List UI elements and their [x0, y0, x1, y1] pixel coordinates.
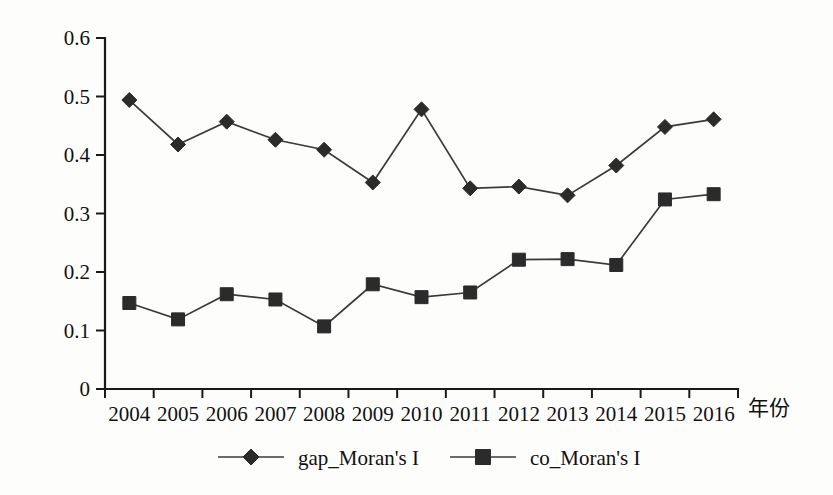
- data-point-marker: [512, 253, 525, 266]
- x-axis-tick-labels: 2004200520062007200820092010201120122013…: [108, 402, 734, 426]
- x-tick-label: 2014: [595, 402, 638, 426]
- y-tick-label: 0.4: [64, 143, 91, 167]
- data-point-marker: [268, 132, 283, 147]
- data-point-marker: [219, 114, 234, 129]
- x-tick-label: 2013: [547, 402, 589, 426]
- data-point-marker: [269, 293, 282, 306]
- x-tick-label: 2012: [498, 402, 540, 426]
- x-tick-label: 2007: [254, 402, 296, 426]
- data-point-marker: [658, 193, 671, 206]
- x-tick-label: 2008: [303, 402, 345, 426]
- line-chart: 00.10.20.30.40.50.6 20042005200620072008…: [0, 0, 833, 495]
- series-2: [123, 188, 720, 333]
- x-tick-label: 2011: [450, 402, 491, 426]
- x-tick-label: 2006: [206, 402, 248, 426]
- data-point-marker: [463, 181, 478, 196]
- legend-marker-square: [476, 450, 491, 465]
- chart-legend: gap_Moran's Ico_Moran's I: [218, 446, 641, 470]
- data-point-marker: [366, 278, 379, 291]
- data-point-marker: [220, 288, 233, 301]
- data-point-marker: [317, 142, 332, 157]
- x-tick-label: 2004: [108, 402, 151, 426]
- legend-label: co_Moran's I: [530, 446, 641, 470]
- y-axis-ticks: [96, 38, 105, 389]
- data-point-marker: [365, 175, 380, 190]
- chart-series: [122, 93, 721, 333]
- data-point-marker: [707, 188, 720, 201]
- data-point-marker: [609, 158, 624, 173]
- legend-label: gap_Moran's I: [298, 446, 419, 470]
- chart-axes: [96, 38, 738, 398]
- legend-item-1[interactable]: gap_Moran's I: [218, 446, 419, 470]
- data-point-marker: [511, 179, 526, 194]
- data-point-marker: [464, 286, 477, 299]
- y-axis-tick-labels: 00.10.20.30.40.50.6: [64, 26, 91, 401]
- data-point-marker: [318, 320, 331, 333]
- x-tick-label: 2005: [157, 402, 199, 426]
- data-point-marker: [123, 297, 136, 310]
- chart-figure: 00.10.20.30.40.50.6 20042005200620072008…: [0, 0, 833, 495]
- data-point-marker: [561, 253, 574, 266]
- data-point-marker: [414, 102, 429, 117]
- data-point-marker: [657, 119, 672, 134]
- x-axis-ticks: [105, 389, 738, 398]
- y-tick-label: 0: [80, 377, 91, 401]
- y-tick-label: 0.2: [64, 260, 90, 284]
- data-point-marker: [706, 112, 721, 127]
- x-tick-label: 2016: [693, 402, 735, 426]
- data-point-marker: [610, 258, 623, 271]
- y-tick-label: 0.1: [64, 319, 90, 343]
- x-tick-label: 2009: [352, 402, 394, 426]
- y-tick-label: 0.3: [64, 202, 90, 226]
- data-point-marker: [172, 313, 185, 326]
- series-1: [122, 93, 721, 203]
- legend-item-2[interactable]: co_Moran's I: [450, 446, 641, 470]
- y-tick-label: 0.6: [64, 26, 90, 50]
- x-tick-label: 2010: [401, 402, 443, 426]
- data-point-marker: [560, 188, 575, 203]
- y-tick-label: 0.5: [64, 85, 90, 109]
- legend-marker-diamond: [243, 449, 259, 465]
- x-axis-title: 年份: [748, 396, 790, 420]
- x-tick-label: 2015: [644, 402, 686, 426]
- data-point-marker: [415, 291, 428, 304]
- series-line: [129, 194, 713, 326]
